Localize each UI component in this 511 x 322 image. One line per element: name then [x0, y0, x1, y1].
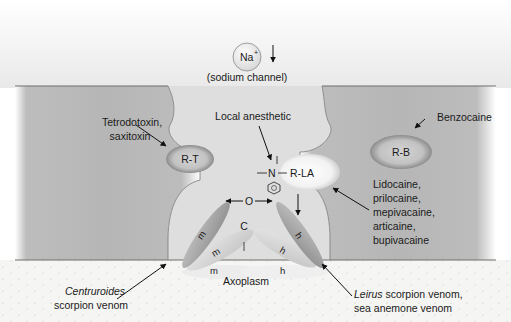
leirus-rest: scorpion venom, [383, 288, 463, 300]
leirus-label: Leirus scorpion venom, [354, 288, 463, 300]
centruroides-label: Centruroides [65, 285, 126, 297]
nitrogen-atom: N [268, 167, 276, 179]
drug-label-prilocaine: prilocaine, [373, 192, 421, 204]
gate-state-closed: C [240, 220, 248, 232]
receptor-tetrodotoxin: R-T [166, 145, 214, 173]
saxitoxin-label: saxitoxin [110, 130, 151, 142]
receptor-local-anesthetic: R-LA [280, 154, 340, 190]
centruroides-scorpion-label: scorpion venom [54, 299, 128, 311]
receptor-rt-label: R-T [181, 153, 199, 165]
gate-state-open: O [245, 195, 253, 207]
drug-label-lidocaine: Lidocaine, [373, 178, 421, 190]
benzocaine-label: Benzocaine [437, 111, 492, 123]
receptor-rb-label: R-B [392, 146, 410, 158]
local-anesthetic-label: Local anesthetic [215, 110, 291, 122]
sodium-channel-caption: (sodium channel) [207, 71, 288, 83]
sodium-channel-diagram: Na + (sodium channel) R-T Tetrodotoxin, … [0, 0, 511, 322]
sodium-ion-symbol: Na [240, 51, 254, 63]
m-gate-label-3: m [210, 265, 218, 276]
receptor-benzocaine: R-B [370, 135, 432, 169]
drug-label-mepivacaine: mepivacaine, [373, 206, 435, 218]
drug-label-bupivacaine: bupivacaine [373, 234, 429, 246]
receptor-rla-label: R-LA [290, 167, 314, 179]
sodium-ion-charge: + [254, 49, 258, 56]
axoplasm-label: Axoplasm [223, 275, 269, 287]
sea-anemone-label: sea anemone venom [354, 302, 452, 314]
leirus-italic: Leirus [354, 288, 383, 300]
h-gate-label-3: h [280, 265, 285, 276]
sodium-ion: Na + [233, 43, 261, 71]
tetrodotoxin-label: Tetrodotoxin, [102, 116, 162, 128]
drug-label-articaine: articaine, [373, 220, 416, 232]
